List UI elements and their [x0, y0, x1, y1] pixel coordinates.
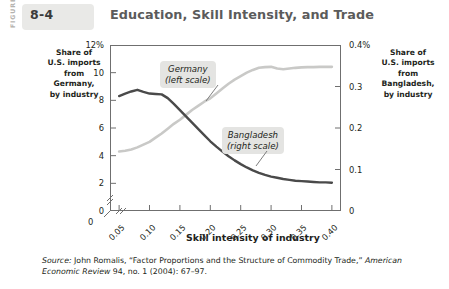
source-note: Source: John Romalis, “Factor Proportion… [42, 255, 422, 278]
source-label: Source: [42, 256, 72, 265]
source-citation: 94, no. 1 (2004): 67–97. [110, 267, 207, 276]
source-author: John Romalis, “Factor Proportions and th… [72, 256, 365, 265]
pointer-germany [206, 85, 218, 101]
x-axis-title: Skill intensity of industry [186, 232, 320, 243]
pointer-bangladesh [256, 151, 267, 166]
callout-pointers [0, 0, 449, 289]
axis-origin-stub [104, 211, 110, 217]
